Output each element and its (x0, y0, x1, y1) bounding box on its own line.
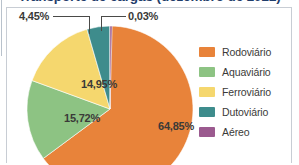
pie-svg (27, 26, 193, 165)
legend-item-aquaviario[interactable]: Aquaviário (199, 62, 291, 81)
legend-swatch-icon-dutoviario (199, 107, 215, 117)
callout-label-dutoviario: 4,45% (19, 10, 49, 22)
legend-label-rodoviario: Rodoviário (222, 46, 271, 58)
legend-swatch-icon-aquaviario (199, 67, 215, 77)
legend-swatch-icon-aereo (199, 127, 215, 137)
legend-item-dutoviario[interactable]: Dutoviário (199, 102, 291, 121)
pie-chart-figure: Transporte de cargas (dezembro de 2022) … (0, 0, 299, 165)
callout-label-aereo: 0,03% (128, 10, 158, 22)
slice-label-ferroviario: 14,95% (81, 78, 117, 90)
slice-label-aquaviario: 15,72% (64, 112, 100, 124)
chart-title: Transporte de cargas (dezembro de 2022) (18, 0, 280, 4)
legend-swatch-icon-rodoviario (199, 47, 215, 57)
legend-item-rodoviario[interactable]: Rodoviário (199, 42, 291, 61)
legend-label-aereo: Aéreo (222, 126, 250, 138)
leader-line-dutoviario-horizontal (53, 16, 90, 17)
legend-label-dutoviario: Dutoviário (222, 106, 268, 118)
legend-label-aquaviario: Aquaviário (222, 66, 271, 78)
leader-line-aereo-horizontal (101, 16, 126, 17)
legend-item-aereo[interactable]: Aéreo (199, 122, 291, 141)
slice-label-rodoviario: 64,85% (158, 120, 194, 132)
pie-slices (27, 26, 193, 165)
leader-line-dutoviario-vertical (89, 16, 90, 34)
legend-swatch-icon-ferroviario (199, 87, 215, 97)
legend-item-ferroviario[interactable]: Ferroviário (199, 82, 291, 101)
pie-area: 64,85% 15,72% 14,95% (27, 26, 193, 165)
leader-line-aereo-vertical (101, 16, 102, 31)
legend-label-ferroviario: Ferroviário (222, 86, 271, 98)
chart-legend: Rodoviário Aquaviário Ferroviário Dutovi… (199, 42, 291, 142)
page-edge-rule (1, 0, 2, 56)
chart-title-strip: Transporte de cargas (dezembro de 2022) (0, 0, 299, 7)
